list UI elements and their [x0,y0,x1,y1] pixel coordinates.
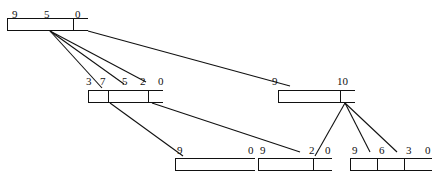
edge-root-to-midleft-c [50,31,146,82]
node-cell[interactable] [314,159,333,170]
node-key-label: 3 [86,76,92,87]
node-key-label: 0 [75,9,81,20]
node-key-label: 9 [272,76,278,87]
mid-right-node[interactable] [278,90,355,103]
node-cell[interactable] [176,159,256,170]
node-key-label: 9 [260,145,266,156]
node-cell[interactable] [259,159,314,170]
node-cell[interactable] [405,159,433,170]
node-cell[interactable] [279,91,341,102]
node-key-label: 2 [140,76,146,87]
node-key-label: 0 [425,145,431,156]
node-cell[interactable] [341,91,356,102]
node-cell[interactable] [89,91,109,102]
node-key-label: 9 [352,145,358,156]
leaf-node-2[interactable] [258,158,332,171]
node-key-label: 9 [12,9,18,20]
node-key-label: 0 [248,145,254,156]
node-cell[interactable] [378,159,405,170]
tree-diagram: 95037520910909209630 [0,0,439,182]
node-key-label: 10 [337,76,348,87]
edge-midleft-to-leaf1 [110,103,183,156]
mid-left-node[interactable] [88,90,163,103]
node-cell[interactable] [149,91,164,102]
leaf-node-1[interactable] [175,158,255,171]
node-cell[interactable] [74,19,89,30]
edge-root-to-midleft-a [50,31,102,88]
node-cell[interactable] [109,91,149,102]
node-cell[interactable] [351,159,378,170]
edge-root-to-midright [88,31,290,86]
node-key-label: 6 [379,145,385,156]
node-key-label: 9 [177,145,183,156]
node-key-label: 5 [44,9,50,20]
leaf-node-3[interactable] [350,158,432,171]
edge-midleft-to-leaf2 [152,103,300,152]
node-key-label: 5 [122,76,128,87]
node-key-label: 3 [406,145,412,156]
node-cell[interactable] [8,19,74,30]
node-key-label: 7 [100,76,106,87]
node-key-label: 2 [309,145,315,156]
node-key-label: 0 [325,145,331,156]
node-key-label: 0 [158,76,164,87]
